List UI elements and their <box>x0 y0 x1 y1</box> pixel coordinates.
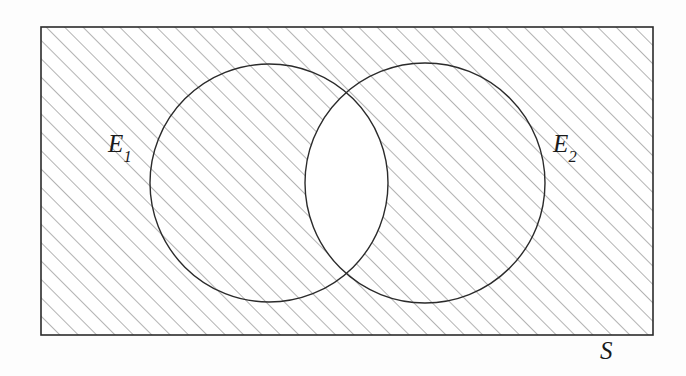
label-sample-space-base: S <box>600 337 613 364</box>
label-event-one: E1 <box>108 131 132 162</box>
hatch-fill <box>41 27 653 335</box>
label-event-two-subscript: 2 <box>569 147 577 166</box>
label-sample-space: S <box>600 338 613 363</box>
label-event-two: E2 <box>553 131 577 162</box>
venn-diagram-canvas <box>0 0 686 376</box>
label-event-one-base: E <box>108 130 123 157</box>
label-event-one-subscript: 1 <box>124 147 132 166</box>
label-event-two-base: E <box>553 130 568 157</box>
shaded-region-complement-of-intersection <box>41 27 653 335</box>
venn-diagram-figure: E1 E2 S <box>0 0 686 376</box>
